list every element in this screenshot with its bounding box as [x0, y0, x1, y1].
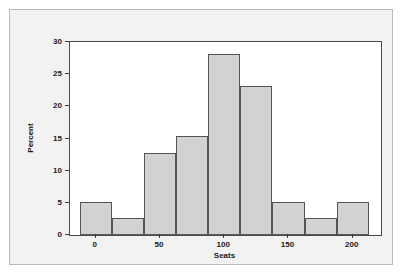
x-axis-title: Seats: [214, 251, 235, 260]
histogram-bar: [144, 153, 176, 235]
x-tick-mark: [159, 234, 160, 238]
x-tick-label: 0: [92, 240, 96, 249]
histogram-bar: [176, 136, 208, 235]
histogram-bar: [272, 202, 304, 235]
x-tick-mark: [223, 234, 224, 238]
x-axis: Seats 050100150200: [10, 234, 392, 264]
histogram-bar: [337, 202, 369, 235]
figure-panel: 051015202530 Percent Seats 050100150200: [9, 9, 393, 265]
histogram-bar: [208, 54, 240, 235]
y-tick-label: 20: [53, 101, 62, 110]
x-tick-label: 200: [345, 240, 358, 249]
y-axis: 051015202530: [10, 10, 69, 264]
plot-area: [70, 42, 381, 235]
histogram-bar: [240, 86, 272, 235]
histogram-bar: [112, 218, 144, 235]
plot-frame: [69, 41, 382, 236]
y-tick-label: 30: [53, 37, 62, 46]
y-axis-title: Percent: [26, 123, 35, 152]
y-tick-label: 5: [58, 197, 62, 206]
histogram-bar: [305, 218, 337, 235]
y-tick-label: 25: [53, 69, 62, 78]
x-tick-mark: [95, 234, 96, 238]
x-tick-label: 50: [155, 240, 164, 249]
y-tick-label: 15: [53, 133, 62, 142]
y-tick-label: 10: [53, 165, 62, 174]
histogram-bar: [80, 202, 112, 235]
histogram-screenshot: 051015202530 Percent Seats 050100150200: [0, 0, 402, 275]
x-tick-mark: [352, 234, 353, 238]
x-tick-mark: [287, 234, 288, 238]
x-tick-label: 150: [281, 240, 294, 249]
x-tick-label: 100: [217, 240, 230, 249]
